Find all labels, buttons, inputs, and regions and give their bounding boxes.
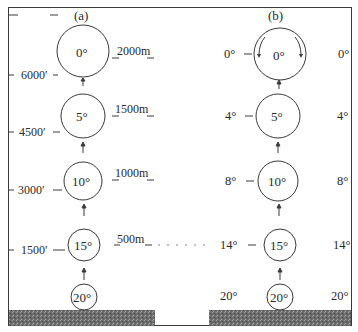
feet-label: 4500′	[19, 126, 46, 138]
panel-label-b: (b)	[268, 9, 283, 22]
ground-left	[9, 310, 155, 326]
feet-label: 1500′	[21, 244, 48, 256]
env-temp-right: 4°	[337, 110, 348, 123]
env-temp-left: 0°	[224, 48, 235, 61]
env-temp-left: 8°	[225, 175, 236, 188]
env-temp-right: 0°	[338, 48, 349, 61]
feet-label: 6000′	[21, 69, 48, 81]
parcel-temp-a-3: 15°	[74, 239, 92, 252]
feet-label: 3000′	[18, 184, 45, 196]
parcel-temp-a-0: 0°	[76, 46, 88, 59]
env-temp-left: 14°	[220, 239, 238, 252]
env-temp-left: 20°	[220, 290, 238, 303]
parcel-temp-b-1: 5°	[271, 110, 283, 123]
altitude-label: 1500m	[115, 103, 148, 115]
ground-right	[209, 310, 351, 326]
env-temp-right: 20°	[331, 290, 349, 303]
env-temp-left: 4°	[225, 110, 236, 123]
env-temp-right: 8°	[337, 175, 348, 188]
altitude-label: 1000m	[115, 167, 148, 179]
parcel-temp-b-2: 10°	[268, 175, 286, 188]
panel-label-a: (a)	[74, 9, 88, 22]
altitude-label: 2000m	[117, 45, 150, 57]
parcel-temp-a-1: 5°	[76, 110, 88, 123]
parcel-temp-b-0: 0°	[273, 49, 285, 62]
parcel-temp-b-3: 15°	[270, 239, 288, 252]
altitude-label: 500m	[117, 233, 144, 245]
parcel-temp-b-4: 20°	[270, 291, 288, 304]
parcel-temp-a-4: 20°	[73, 291, 91, 304]
env-temp-right: 14°	[333, 239, 351, 252]
diagram-frame	[0, 0, 358, 332]
parcel-temp-a-2: 10°	[72, 175, 90, 188]
